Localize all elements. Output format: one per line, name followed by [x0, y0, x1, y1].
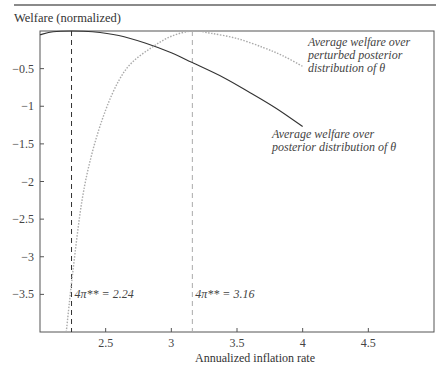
x-tick-label: 4.5	[361, 336, 376, 350]
x-tick-label: 3	[168, 336, 174, 350]
series-annotation: perturbed posterior	[307, 48, 403, 62]
y-tick-label: −2.5	[12, 212, 34, 226]
y-tick-label: −3	[21, 250, 34, 264]
x-tick-label: 2.5	[98, 336, 113, 350]
y-tick-label: −0.5	[12, 62, 34, 76]
x-axis-label: Annualized inflation rate	[195, 351, 315, 365]
y-tick-label: −3.5	[12, 287, 34, 301]
y-tick-label: −2	[21, 175, 34, 189]
series-annotation: posterior distribution of θ	[271, 140, 396, 154]
y-axis: −0.5−1−1.5−2−2.5−3−3.5	[12, 62, 44, 302]
welfare-chart: −0.5−1−1.5−2−2.5−3−3.5 2.533.544.5 4π** …	[0, 0, 448, 374]
series-annotation: Average welfare over	[307, 35, 411, 49]
optimum-label: 4π** = 3.16	[195, 287, 254, 301]
x-axis: 2.533.544.5	[98, 328, 376, 350]
annotations: Average welfare overperturbed posteriord…	[271, 35, 411, 154]
optimum-label: 4π** = 2.24	[75, 287, 134, 301]
posterior-welfare-line	[40, 31, 303, 127]
optimum-lines: 4π** = 2.244π** = 3.16	[72, 31, 255, 332]
x-tick-label: 3.5	[230, 336, 245, 350]
series-annotation: distribution of θ	[308, 61, 385, 75]
y-tick-label: −1	[21, 99, 34, 113]
x-tick-label: 4	[300, 336, 306, 350]
y-tick-label: −1.5	[12, 137, 34, 151]
series-annotation: Average welfare over	[271, 127, 375, 141]
